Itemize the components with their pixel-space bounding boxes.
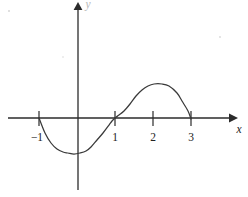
graph-figure: −1 1 2 3 x y — [0, 0, 248, 197]
y-axis-arrowhead — [74, 2, 83, 10]
scan-speck — [62, 56, 64, 58]
x-tick-label-1: 1 — [112, 131, 118, 143]
x-tick-label-2: 2 — [150, 131, 156, 143]
scan-speck — [8, 10, 10, 12]
x-tick-label-minus1: −1 — [31, 131, 43, 143]
scan-speck — [219, 36, 221, 38]
x-axis-arrowhead — [229, 113, 238, 122]
x-tick-label-3: 3 — [188, 131, 194, 143]
x-axis-label: x — [235, 123, 242, 135]
coordinate-plot: −1 1 2 3 x y — [0, 0, 248, 197]
y-axis-label: y — [84, 0, 91, 11]
